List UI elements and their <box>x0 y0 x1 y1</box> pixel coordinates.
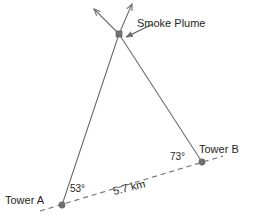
tower-a-label: Tower A <box>5 194 44 206</box>
triangulation-diagram: Smoke Plume Tower A Tower B 53° 73° 5.7 … <box>0 0 258 224</box>
smoke-plume-label: Smoke Plume <box>137 17 205 29</box>
angle-at-tower-b-label: 73° <box>170 151 185 163</box>
smoke-plume-point-marker <box>116 31 123 38</box>
tower-b-point-marker <box>199 159 206 166</box>
tower-b-label: Tower B <box>199 143 239 155</box>
sight-line-tower-a-extension-arrow <box>119 4 132 34</box>
sight-line-tower-b <box>119 34 202 162</box>
angle-at-tower-a-label: 53° <box>70 183 85 195</box>
tower-a-point-marker <box>59 202 66 209</box>
sight-line-tower-a <box>62 34 119 205</box>
sight-line-tower-b-extension-arrow <box>94 9 119 34</box>
